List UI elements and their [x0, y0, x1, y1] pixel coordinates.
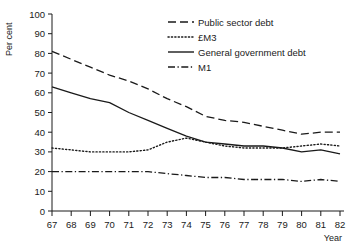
x-tick-label: 67	[47, 219, 58, 230]
x-tick-label: 70	[104, 219, 115, 230]
y-tick-label: 100	[29, 9, 45, 20]
x-tick-label: 77	[239, 219, 250, 230]
y-tick-label: 90	[34, 28, 45, 39]
line-chart: 0102030405060708090100Per cent6768697071…	[0, 0, 352, 244]
y-tick-label: 70	[34, 68, 45, 79]
x-tick-label: 72	[143, 219, 154, 230]
x-tick-label: 81	[316, 219, 327, 230]
x-tick-label: 75	[200, 219, 211, 230]
legend-item-0: Public sector debt	[168, 17, 274, 28]
x-tick-label: 73	[162, 219, 173, 230]
y-tick-label: 30	[34, 146, 45, 157]
x-tick-label: 82	[335, 219, 346, 230]
series-line-3	[52, 172, 340, 182]
legend-item-2: General government debt	[168, 47, 306, 58]
legend-item-1: £M3	[168, 32, 216, 43]
x-tick-label: 76	[220, 219, 231, 230]
series-line-2	[52, 87, 340, 154]
y-tick-label: 80	[34, 48, 45, 59]
x-tick-label: 71	[124, 219, 135, 230]
y-tick-label: 20	[34, 166, 45, 177]
y-tick-label: 10	[34, 186, 45, 197]
x-tick-label: 80	[296, 219, 307, 230]
x-tick-label: 68	[66, 219, 77, 230]
legend-label-0: Public sector debt	[198, 17, 274, 28]
x-axis-title: Year	[324, 233, 342, 243]
y-tick-label: 40	[34, 127, 45, 138]
y-axis-title: Per cent	[4, 22, 14, 56]
y-tick-label: 0	[40, 206, 45, 217]
x-tick-label: 78	[258, 219, 269, 230]
legend-item-3: M1	[168, 62, 211, 73]
x-tick-label: 79	[277, 219, 288, 230]
series-line-1	[52, 138, 340, 152]
chart-container: 0102030405060708090100Per cent6768697071…	[0, 0, 352, 244]
x-tick-label: 74	[181, 219, 192, 230]
legend-label-2: General government debt	[198, 47, 306, 58]
y-tick-label: 50	[34, 107, 45, 118]
y-tick-label: 60	[34, 87, 45, 98]
series-line-0	[52, 51, 340, 134]
legend-label-1: £M3	[198, 32, 216, 43]
x-tick-label: 69	[85, 219, 96, 230]
legend-label-3: M1	[198, 62, 211, 73]
